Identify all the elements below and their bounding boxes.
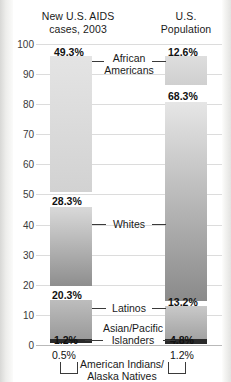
- leader-line-asian-pacific-right: [163, 340, 175, 341]
- value-label-american-indians-population: 1.2%: [170, 349, 194, 361]
- leader-line-african-americans-left: [92, 61, 104, 62]
- chart-page: New U.S. AIDS cases, 2003 U.S. Populatio…: [0, 0, 231, 382]
- bar-segment-whites-aids[interactable]: [50, 207, 92, 286]
- column-header-left-line2: cases, 2003: [32, 23, 124, 36]
- bar-segment-african-americans-aids[interactable]: [50, 56, 92, 192]
- category-label-asian-pacific-line2: Islanders: [98, 334, 168, 346]
- leader-line-latinos-left: [92, 308, 106, 309]
- ytick-10: 10: [13, 310, 34, 321]
- value-label-latinos-aids: 20.3%: [52, 289, 82, 301]
- column-header-right-line1: U.S.: [144, 10, 228, 23]
- ytick-90: 90: [13, 69, 34, 80]
- ytick-60: 60: [13, 159, 34, 170]
- bracket-american-indians-right: [168, 362, 186, 374]
- page-edge-shadow-right: [222, 0, 231, 382]
- ytick-20: 20: [13, 280, 34, 291]
- value-label-whites-aids: 28.3%: [52, 195, 82, 207]
- ytick-40: 40: [13, 220, 34, 231]
- value-label-american-indians-aids: 0.5%: [52, 349, 76, 361]
- leader-line-whites-right: [152, 224, 166, 225]
- leader-line-whites-left: [92, 224, 106, 225]
- ytick-80: 80: [13, 99, 34, 110]
- category-label-african-americans-line2: Americans: [99, 64, 159, 76]
- value-label-african-americans-aids: 49.3%: [54, 46, 84, 58]
- category-label-african-americans: African Americans: [99, 52, 159, 76]
- category-label-asian-pacific-line1: Asian/Pacific: [98, 322, 168, 334]
- column-header-left: New U.S. AIDS cases, 2003: [32, 10, 124, 35]
- category-label-african-americans-line1: African: [99, 52, 159, 64]
- ytick-70: 70: [13, 129, 34, 140]
- category-label-asian-pacific-islanders: Asian/Pacific Islanders: [98, 322, 168, 346]
- category-label-american-indians: American Indians/ Alaska Natives: [76, 358, 168, 382]
- ytick-0: 0: [13, 340, 34, 351]
- page-edge-shadow-left: [0, 0, 13, 382]
- leader-line-asian-pacific-left: [85, 340, 103, 341]
- leader-line-latinos-right: [152, 308, 166, 309]
- ytick-30: 30: [13, 250, 34, 261]
- ytick-50: 50: [13, 189, 34, 200]
- value-label-whites-population: 68.3%: [168, 90, 198, 102]
- bar-segment-african-americans-population[interactable]: [165, 56, 207, 85]
- category-label-american-indians-line2: Alaska Natives: [76, 370, 168, 382]
- value-label-african-americans-population: 12.6%: [168, 46, 198, 58]
- category-label-whites: Whites: [108, 218, 150, 230]
- ytick-100: 100: [13, 39, 34, 50]
- leader-line-african-americans-right: [152, 61, 166, 62]
- column-header-right-line2: Population: [144, 23, 228, 36]
- column-header-left-line1: New U.S. AIDS: [32, 10, 124, 23]
- value-label-latinos-population: 13.2%: [168, 296, 198, 308]
- category-label-american-indians-line1: American Indians/: [76, 358, 168, 370]
- value-label-asian-pacific-aids: 1.2%: [54, 334, 78, 346]
- category-label-latinos: Latinos: [106, 302, 152, 314]
- gridline-100: [36, 44, 222, 45]
- bracket-american-indians-left: [60, 362, 78, 374]
- column-header-right: U.S. Population: [144, 10, 228, 35]
- bar-segment-whites-population[interactable]: [165, 102, 207, 301]
